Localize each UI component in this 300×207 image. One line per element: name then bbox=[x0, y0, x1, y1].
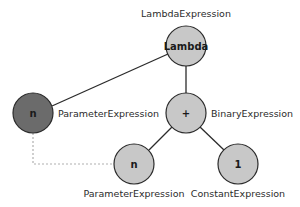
edge-param-reference-dashed bbox=[33, 133, 114, 164]
node-binary: + BinaryExpression bbox=[166, 93, 293, 133]
node-constant-label: ConstantExpression bbox=[191, 188, 285, 199]
node-lambda-label: LambdaExpression bbox=[141, 8, 231, 19]
node-param-root: n ParameterExpression bbox=[13, 93, 159, 133]
node-lambda: Lambda LambdaExpression bbox=[141, 8, 231, 66]
edge-binary-constant bbox=[200, 127, 224, 150]
node-param-ref-label: ParameterExpression bbox=[84, 188, 185, 199]
node-constant: 1 ConstantExpression bbox=[191, 144, 285, 199]
edge-binary-param bbox=[149, 127, 172, 150]
node-param-root-label: ParameterExpression bbox=[58, 108, 159, 119]
node-param-ref-text: n bbox=[130, 159, 137, 170]
node-param-ref: n ParameterExpression bbox=[84, 144, 185, 199]
edge-lambda-param bbox=[52, 54, 168, 106]
node-binary-text: + bbox=[182, 108, 190, 119]
node-constant-text: 1 bbox=[235, 159, 242, 170]
node-lambda-text: Lambda bbox=[164, 41, 209, 52]
node-param-root-text: n bbox=[29, 108, 36, 119]
node-binary-label: BinaryExpression bbox=[211, 108, 293, 119]
expression-tree-diagram: Lambda LambdaExpression n ParameterExpre… bbox=[0, 0, 300, 207]
